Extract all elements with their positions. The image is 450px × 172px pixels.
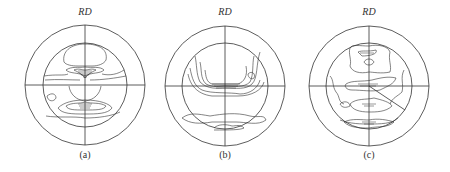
panel-caption-b: (b) xyxy=(219,149,231,160)
pole-figure-set: RD RD RD (a) (b) (c) xyxy=(0,0,450,172)
rd-axis-label-a: RD xyxy=(78,6,91,17)
panel-caption-c: (c) xyxy=(363,149,374,160)
pole-figures-graphic xyxy=(0,0,450,172)
pole-figure-c xyxy=(309,26,429,146)
pole-figure-b xyxy=(165,26,285,146)
pole-figure-a xyxy=(25,25,145,145)
panel-caption-a: (a) xyxy=(79,149,90,160)
rd-axis-label-c: RD xyxy=(362,6,375,17)
rd-axis-label-b: RD xyxy=(218,6,231,17)
